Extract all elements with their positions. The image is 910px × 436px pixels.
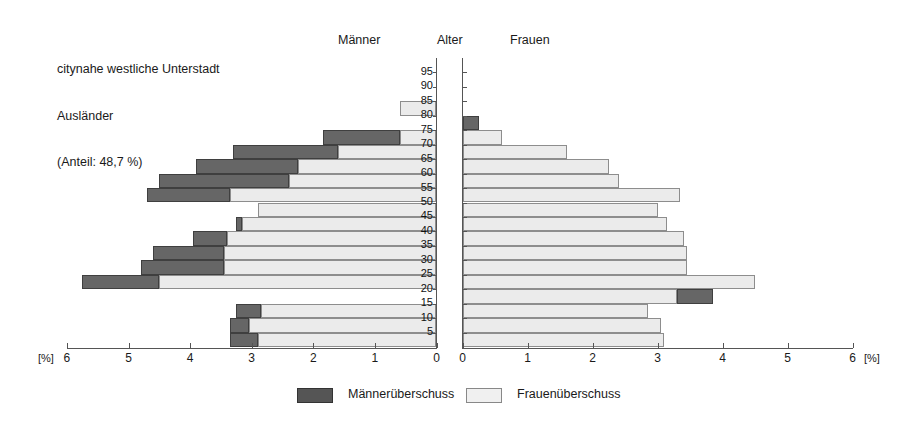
x-tick-right-5 (788, 343, 789, 348)
age-tick-mark-right-65 (463, 159, 467, 160)
bar-women-65-70 (463, 145, 567, 159)
bar-women-5-10 (463, 318, 661, 332)
age-tick-mark-left-10 (433, 318, 437, 319)
bar-men-surplus-25-30 (141, 260, 224, 274)
x-label-left-2: 2 (301, 351, 325, 365)
age-tick-65: 65 (411, 152, 433, 164)
age-tick-60: 60 (411, 166, 433, 178)
age-tick-mark-right-10 (463, 318, 467, 319)
bar-men-0-5 (258, 333, 437, 347)
chart-legend: Männerüberschuss Frauenüberschuss (0, 386, 910, 408)
x-tick-right-3 (658, 343, 659, 348)
age-tick-15: 15 (411, 296, 433, 308)
bar-men-40-45 (242, 217, 436, 231)
age-tick-20: 20 (411, 282, 433, 294)
bar-women-20-25 (463, 275, 756, 289)
age-tick-mark-left-45 (433, 217, 437, 218)
bar-women-35-40 (463, 231, 684, 245)
x-label-right-6: 6 (841, 351, 865, 365)
legend-label-women-surplus: Frauenüberschuss (517, 387, 621, 401)
bar-men-surplus-60-65 (196, 159, 298, 173)
bar-men-35-40 (227, 231, 436, 245)
age-tick-mark-left-95 (433, 72, 437, 73)
age-tick-mark-left-35 (433, 246, 437, 247)
age-tick-85: 85 (411, 94, 433, 106)
bar-women-70-75 (463, 130, 502, 144)
bar-men-surplus-30-35 (153, 246, 224, 260)
x-label-right-3: 3 (646, 351, 670, 365)
bar-men-surplus-50-55 (147, 188, 230, 202)
bar-women-30-35 (463, 246, 687, 260)
age-tick-30: 30 (411, 253, 433, 265)
age-tick-10: 10 (411, 311, 433, 323)
age-tick-mark-left-20 (433, 289, 437, 290)
age-tick-50: 50 (411, 195, 433, 207)
legend-label-men-surplus: Männerüberschuss (348, 387, 454, 401)
age-tick-mark-left-65 (433, 159, 437, 160)
age-tick-25: 25 (411, 267, 433, 279)
x-label-left-5: 5 (117, 351, 141, 365)
age-tick-mark-right-85 (463, 101, 467, 102)
bar-men-surplus-40-45 (236, 217, 242, 231)
bar-women-60-65 (463, 159, 609, 173)
bar-men-25-30 (224, 260, 437, 274)
x-label-right-4: 4 (711, 351, 735, 365)
age-tick-mark-right-75 (463, 130, 467, 131)
x-tick-right-4 (723, 343, 724, 348)
age-tick-mark-right-60 (463, 174, 467, 175)
bar-women-45-50 (463, 203, 658, 217)
bar-women-10-15 (463, 304, 648, 318)
age-tick-mark-left-75 (433, 130, 437, 131)
x-label-left-4: 4 (178, 351, 202, 365)
age-tick-mark-left-60 (433, 174, 437, 175)
bar-women-0-5 (463, 333, 665, 347)
age-tick-mark-left-30 (433, 260, 437, 261)
x-label-right-2: 2 (581, 351, 605, 365)
age-tick-mark-right-35 (463, 246, 467, 247)
age-tick-45: 45 (411, 209, 433, 221)
age-tick-mark-right-50 (463, 203, 467, 204)
bar-men-5-10 (249, 318, 437, 332)
age-tick-35: 35 (411, 238, 433, 250)
bar-women-15-20 (463, 289, 678, 303)
x-label-left-6: 6 (55, 351, 79, 365)
chart-canvas: citynahe westliche Unterstadt Ausländer … (0, 0, 910, 436)
age-tick-mark-left-50 (433, 203, 437, 204)
age-tick-90: 90 (411, 79, 433, 91)
age-tick-mark-right-5 (463, 333, 467, 334)
age-tick-mark-right-30 (463, 260, 467, 261)
age-tick-mark-left-85 (433, 101, 437, 102)
x-tick-left-6 (67, 343, 68, 348)
age-tick-mark-right-15 (463, 304, 467, 305)
population-pyramid (0, 0, 910, 436)
age-tick-5: 5 (411, 325, 433, 337)
bar-women-40-45 (463, 217, 668, 231)
x-tick-left-1 (375, 343, 376, 348)
axis-right-horizontal (462, 348, 853, 349)
axis-left-horizontal (67, 348, 437, 349)
bar-women-surplus-15-20 (677, 289, 713, 303)
unit-label-right: [%] (864, 352, 880, 364)
x-tick-left-2 (313, 343, 314, 348)
age-tick-mark-right-40 (463, 231, 467, 232)
x-tick-left-4 (190, 343, 191, 348)
age-tick-mark-left-5 (433, 333, 437, 334)
x-tick-right-0 (463, 343, 464, 348)
bar-women-50-55 (463, 188, 681, 202)
x-label-left-3: 3 (240, 351, 264, 365)
bar-women-55-60 (463, 174, 619, 188)
x-tick-right-2 (593, 343, 594, 348)
bar-men-surplus-70-75 (323, 130, 400, 144)
x-label-left-1: 1 (363, 351, 387, 365)
bar-men-50-55 (230, 188, 436, 202)
age-tick-mark-left-90 (433, 87, 437, 88)
age-tick-80: 80 (411, 108, 433, 120)
age-tick-mark-left-25 (433, 275, 437, 276)
age-tick-mark-right-55 (463, 188, 467, 189)
x-tick-right-6 (853, 343, 854, 348)
x-label-right-0: 0 (451, 351, 475, 365)
age-tick-mark-left-70 (433, 145, 437, 146)
x-label-right-5: 5 (776, 351, 800, 365)
bar-men-45-50 (258, 203, 437, 217)
bar-women-surplus-75-80 (463, 116, 479, 130)
